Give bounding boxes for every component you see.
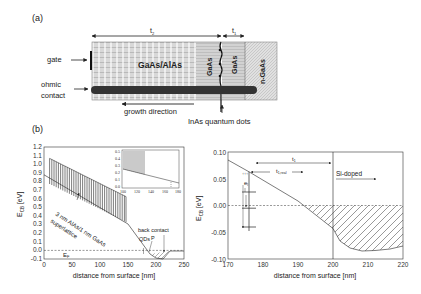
svg-text:1.2: 1.2 bbox=[33, 143, 42, 150]
qd-label: InAs quantum dots bbox=[188, 117, 251, 126]
si-doped-label: Si-doped bbox=[336, 170, 362, 178]
svg-text:0.5: 0.5 bbox=[33, 203, 42, 210]
svg-text:0.2: 0.2 bbox=[33, 229, 42, 236]
fermi-label-left: EF bbox=[63, 252, 70, 259]
panel-b-label: (b) bbox=[32, 124, 43, 134]
gaas-label-2: GaAs bbox=[231, 56, 238, 74]
svg-text:220: 220 bbox=[398, 261, 409, 268]
ohmic-label-line1: ohmic bbox=[41, 80, 61, 89]
chart-right-y-ticks: 0.10 0.05 0.00 -0.05 -0.10 bbox=[211, 149, 226, 263]
svg-text:0.3: 0.3 bbox=[115, 163, 120, 168]
back-contact-hatch bbox=[150, 251, 170, 259]
growth-direction-label: growth direction bbox=[124, 107, 177, 116]
chart-left-y-ticks: 1.2 1.1 1.0 0.9 0.8 0.7 0.6 0.5 0.4 0.3 … bbox=[31, 143, 43, 262]
qds-label: QDs bbox=[139, 236, 150, 242]
ohmic-contact-bar bbox=[91, 86, 257, 94]
svg-text:-0.1: -0.1 bbox=[31, 255, 43, 262]
svg-text:1.1: 1.1 bbox=[33, 152, 42, 159]
figure-canvas: (a) t2 t1 GaAs/AlAs GaAs GaAs n-GaAs gat… bbox=[0, 0, 421, 294]
svg-text:160: 160 bbox=[162, 189, 168, 194]
svg-text:0.00: 0.00 bbox=[213, 202, 226, 209]
el-label: el bbox=[244, 180, 248, 187]
svg-text:150: 150 bbox=[123, 261, 134, 268]
svg-text:0.1: 0.1 bbox=[33, 238, 42, 245]
panel-b: (b) bbox=[32, 124, 43, 134]
svg-text:0.5: 0.5 bbox=[115, 149, 120, 154]
svg-text:0.10: 0.10 bbox=[213, 149, 226, 156]
svg-text:0.05: 0.05 bbox=[213, 176, 226, 183]
svg-text:140: 140 bbox=[148, 189, 154, 194]
svg-text:200: 200 bbox=[151, 261, 162, 268]
svg-text:180: 180 bbox=[175, 189, 181, 194]
svg-text:100: 100 bbox=[120, 189, 126, 194]
svg-text:200: 200 bbox=[328, 261, 339, 268]
filled-states-hatch bbox=[305, 206, 403, 252]
svg-text:170: 170 bbox=[223, 261, 234, 268]
inset-chart: 0.5 0.4 0.3 0.2 0.1 0.0 100 120 140 160 … bbox=[115, 149, 181, 194]
gaas-label-1: GaAs bbox=[206, 58, 213, 76]
svg-text:-0.05: -0.05 bbox=[211, 229, 226, 236]
svg-text:180: 180 bbox=[258, 261, 269, 268]
n-gaas-label: n-GaAs bbox=[259, 59, 266, 84]
svg-text:0.4: 0.4 bbox=[33, 212, 42, 219]
svg-text:0.8: 0.8 bbox=[33, 177, 42, 184]
gate-electrode bbox=[90, 51, 92, 70]
chart-left-x-ticks: 0 50 100 150 200 250 bbox=[42, 261, 190, 268]
chart-left-xlabel: distance from surface [nm] bbox=[73, 272, 156, 280]
svg-text:↑↑↑: ↑↑↑ bbox=[242, 171, 248, 176]
svg-text:50: 50 bbox=[68, 261, 76, 268]
back-contact-label: back contact bbox=[138, 227, 169, 233]
ohmic-label-line2: contact bbox=[41, 91, 66, 100]
svg-text:1.0: 1.0 bbox=[33, 160, 42, 167]
svg-text:0.6: 0.6 bbox=[33, 195, 42, 202]
svg-text:0.3: 0.3 bbox=[33, 220, 42, 227]
svg-text:120: 120 bbox=[134, 189, 140, 194]
svg-text:190: 190 bbox=[293, 261, 304, 268]
svg-text:0.7: 0.7 bbox=[33, 186, 42, 193]
svg-text:0.9: 0.9 bbox=[33, 169, 42, 176]
t1-label: t1 bbox=[232, 27, 237, 36]
chart-right-x-ticks: 170 180 190 200 210 220 bbox=[223, 261, 409, 268]
svg-text:t1: t1 bbox=[292, 156, 296, 163]
svg-text:0: 0 bbox=[42, 261, 46, 268]
superlattice-label: GaAs/AlAs bbox=[138, 60, 182, 70]
svg-text:0.4: 0.4 bbox=[115, 156, 120, 161]
svg-text:0.1: 0.1 bbox=[115, 177, 120, 182]
svg-text:210: 210 bbox=[363, 261, 374, 268]
chart-right: ↑↑↑ el t1 t1,real Si-doped 0.10 0.05 0.0… bbox=[195, 149, 409, 280]
chart-left-ylabel: ECB [eV] bbox=[16, 192, 25, 217]
svg-text:250: 250 bbox=[179, 261, 190, 268]
t2-label: t2 bbox=[150, 27, 155, 36]
panel-a-label: (a) bbox=[32, 13, 43, 23]
chart-left: 1.2 1.1 1.0 0.9 0.8 0.7 0.6 0.5 0.4 0.3 … bbox=[16, 143, 190, 280]
gate-label: gate bbox=[47, 55, 62, 64]
svg-text:0.2: 0.2 bbox=[115, 170, 120, 175]
svg-text:100: 100 bbox=[95, 261, 106, 268]
panel-a: (a) t2 t1 GaAs/AlAs GaAs GaAs n-GaAs gat… bbox=[32, 13, 277, 126]
chart-right-xlabel: distance from surface [nm] bbox=[274, 272, 357, 280]
svg-text:0.0: 0.0 bbox=[33, 246, 42, 253]
p-label: P bbox=[151, 235, 155, 241]
chart-right-ylabel: ECB [eV] bbox=[195, 196, 204, 221]
